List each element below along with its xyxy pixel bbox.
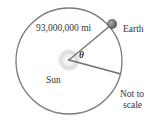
distance-label: 93,000,000 mi: [36, 24, 91, 34]
earth-label: Earth: [123, 25, 144, 35]
sun-icon: [68, 59, 70, 61]
note-line-1: Not to: [120, 90, 144, 100]
note-line-2: scale: [123, 101, 142, 111]
earth-icon: [107, 19, 117, 29]
angle-label: θ: [79, 51, 84, 61]
sun-label: Sun: [46, 76, 61, 86]
